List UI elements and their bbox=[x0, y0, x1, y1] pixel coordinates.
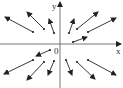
vector-base-point bbox=[43, 61, 45, 63]
vector-arrow bbox=[4, 60, 33, 74]
vector-arrow bbox=[36, 50, 50, 56]
vector-base-point bbox=[43, 28, 45, 30]
vector-base-point bbox=[65, 59, 67, 61]
x-axis-label: x bbox=[116, 46, 121, 56]
vector-arrow bbox=[27, 62, 44, 80]
vector-arrow bbox=[49, 19, 54, 33]
vector-arrow bbox=[73, 37, 87, 42]
vector-base-point bbox=[72, 41, 74, 43]
vector-base-point bbox=[32, 59, 34, 61]
vector-base-point bbox=[53, 32, 55, 34]
vector-base-point bbox=[53, 60, 55, 62]
vector-arrow bbox=[69, 19, 74, 33]
vector-arrow bbox=[5, 17, 33, 32]
vector-arrow bbox=[66, 60, 72, 75]
vector-base-point bbox=[32, 31, 34, 33]
vector-base-point bbox=[68, 32, 70, 34]
vector-arrow bbox=[88, 18, 116, 32]
vector-base-point bbox=[76, 61, 78, 63]
vector-arrow bbox=[88, 60, 116, 75]
vector-field-diagram: y x 0 bbox=[0, 0, 123, 88]
vector-arrow bbox=[27, 12, 44, 29]
origin-label: 0 bbox=[54, 46, 59, 56]
vector-base-point bbox=[87, 31, 89, 33]
vector-arrow bbox=[77, 12, 98, 29]
vector-base-point bbox=[76, 28, 78, 30]
vector-arrow bbox=[77, 62, 95, 79]
vector-arrow bbox=[48, 61, 54, 75]
y-axis-label: y bbox=[52, 1, 57, 11]
vector-base-point bbox=[49, 49, 51, 51]
vector-base-point bbox=[87, 59, 89, 61]
